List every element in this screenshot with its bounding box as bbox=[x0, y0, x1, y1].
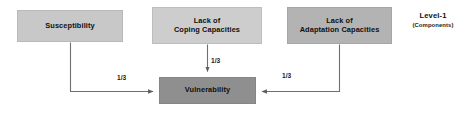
node-vulnerability-label: Vulnerability bbox=[160, 86, 255, 95]
level-legend-subtitle: (Components) bbox=[400, 22, 466, 28]
edge-weight-coping: 1/3 bbox=[211, 57, 220, 64]
level-legend: Level-1 (Components) bbox=[400, 11, 466, 28]
edge-adaptation-to-vulnerability bbox=[262, 45, 340, 92]
node-lack-of-adaptation-capacities[interactable]: Lack of Adaptation Capacities bbox=[287, 7, 392, 44]
vulnerability-hierarchy-diagram: Susceptibility Lack of Coping Capacities… bbox=[0, 0, 469, 114]
level-legend-title: Level-1 bbox=[400, 11, 466, 20]
node-vulnerability[interactable]: Vulnerability bbox=[159, 77, 256, 104]
node-lack-of-adaptation-capacities-label: Lack of Adaptation Capacities bbox=[288, 17, 391, 34]
node-lack-of-coping-capacities-label: Lack of Coping Capacities bbox=[153, 17, 261, 34]
edge-susceptibility-to-vulnerability bbox=[71, 43, 154, 92]
node-lack-of-coping-capacities[interactable]: Lack of Coping Capacities bbox=[152, 7, 262, 44]
node-coping-line-2: Coping Capacities bbox=[174, 25, 240, 34]
node-susceptibility[interactable]: Susceptibility bbox=[17, 10, 123, 42]
node-coping-line-1: Lack of bbox=[194, 16, 221, 25]
edge-weight-adaptation: 1/3 bbox=[282, 72, 291, 79]
edge-weight-susceptibility: 1/3 bbox=[117, 74, 126, 81]
node-adaptation-line-1: Lack of bbox=[326, 16, 353, 25]
node-adaptation-line-2: Adaptation Capacities bbox=[300, 25, 380, 34]
node-susceptibility-label: Susceptibility bbox=[18, 22, 122, 31]
